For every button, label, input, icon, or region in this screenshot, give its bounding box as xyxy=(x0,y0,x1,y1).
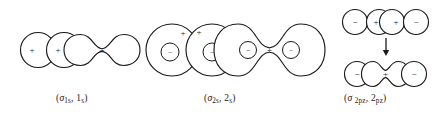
caption-2s-sub1: 2s xyxy=(212,97,219,105)
caption-sigma-1s: (σ1s, 1s) xyxy=(56,93,88,103)
arrow-down-2pz xyxy=(383,38,389,56)
sign-minus-sigma-2s-left: − xyxy=(246,46,250,55)
sign-minus-sigma-2pz-right: − xyxy=(411,69,416,79)
2pz-right-inner-lobe xyxy=(380,10,405,35)
molecular-orbital-figure: + + + − + − + xyxy=(0,0,446,117)
caption-1s-sub1: 1s xyxy=(64,97,71,105)
sign-plus-2pz-right-inner: + xyxy=(393,17,398,27)
sign-minus-2pz-right-outer: − xyxy=(413,17,418,27)
sign-minus-sigma-2s-right: − xyxy=(289,46,293,55)
sign-plus-2pz-left-inner: + xyxy=(373,17,378,27)
caption-1s-mid: , 1 xyxy=(71,93,81,103)
sign-plus-sigma-2pz-center: + xyxy=(383,69,388,79)
caption-2pz-sigma: σ xyxy=(347,93,352,103)
sign-plus-sigma-1s: + xyxy=(99,45,104,55)
caption-2pz-sub1: 2pz xyxy=(355,97,366,105)
sign-plus-1s-left: + xyxy=(29,45,34,55)
caption-2pz-close: ) xyxy=(383,93,386,103)
sign-plus-2s-right: + xyxy=(196,27,201,37)
sign-plus-1s-right: + xyxy=(55,45,60,55)
sign-minus-2s-left: − xyxy=(168,48,172,57)
caption-sigma-2pz: (σ2pz, 2pz) xyxy=(344,93,386,103)
caption-sigma-2s: (σ2s, 2s) xyxy=(204,93,236,103)
caption-1s-sub2: s xyxy=(81,97,84,105)
caption-2pz-sub2: pz xyxy=(376,97,383,105)
sign-minus-2pz-left-outer: − xyxy=(352,17,357,27)
caption-2s-mid: , 2 xyxy=(219,93,229,103)
panel-sigma-1s: + + + xyxy=(21,33,141,68)
caption-2pz-mid: , 2 xyxy=(366,93,376,103)
caption-2s-close: ) xyxy=(232,93,235,103)
panel-sigma-2pz: − + + − − + − xyxy=(343,10,429,87)
sign-minus-sigma-2pz-left: − xyxy=(354,69,359,79)
panel-sigma-2s: − + − + − − + xyxy=(146,24,325,76)
caption-1s-close: ) xyxy=(84,93,87,103)
sign-plus-2s-left: + xyxy=(180,28,185,38)
caption-2s-sub2: s xyxy=(229,97,232,105)
sign-plus-sigma-2s-center: + xyxy=(267,45,272,55)
